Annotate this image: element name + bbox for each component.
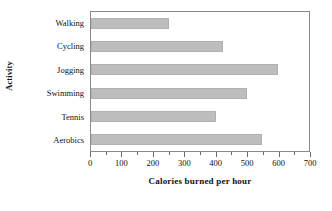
category-label-tennis: Tennis [18, 105, 88, 129]
x-tick-minor [169, 152, 170, 155]
bar-row [91, 105, 309, 128]
x-tick-minor [263, 152, 264, 155]
x-tick-major [153, 152, 154, 157]
bar-aerobics [91, 134, 262, 145]
x-axis-title: Calories burned per hour [90, 176, 310, 186]
bar-tennis [91, 111, 216, 122]
x-tick-minor [294, 152, 295, 155]
bar-jogging [91, 64, 278, 75]
category-label-cycling: Cycling [18, 35, 88, 59]
category-axis-labels: Walking Cycling Jogging Swimming Tennis … [18, 11, 88, 152]
bar-row [91, 12, 309, 35]
bar-row [91, 82, 309, 105]
category-label-walking: Walking [18, 11, 88, 35]
x-tick-minor [231, 152, 232, 155]
x-tick-label: 300 [178, 158, 191, 168]
x-tick-minor [106, 152, 107, 155]
x-tick-label: 200 [146, 158, 159, 168]
bar-walking [91, 18, 169, 29]
x-tick-minor [200, 152, 201, 155]
x-tick-major [90, 152, 91, 157]
category-label-aerobics: Aerobics [18, 129, 88, 153]
category-label-jogging: Jogging [18, 58, 88, 82]
bar-row [91, 58, 309, 81]
bar-cycling [91, 41, 223, 52]
category-label-swimming: Swimming [18, 82, 88, 106]
x-tick-major [216, 152, 217, 157]
x-tick-label: 700 [304, 158, 317, 168]
x-tick-label: 400 [209, 158, 222, 168]
x-tick-label: 0 [88, 158, 92, 168]
bar-chart: Activity Walking Cycling Jogging Swimmin… [0, 0, 332, 211]
bar-row [91, 128, 309, 151]
x-tick-label: 600 [272, 158, 285, 168]
y-axis-title: Activity [0, 0, 18, 152]
x-tick-label: 100 [115, 158, 128, 168]
y-axis-title-text: Activity [4, 61, 14, 91]
bar-swimming [91, 88, 247, 99]
x-tick-major [247, 152, 248, 157]
bars-layer [91, 12, 309, 151]
x-axis-tick-labels: 0100200300400500600700 [90, 158, 310, 172]
x-tick-major [279, 152, 280, 157]
plot-area [90, 11, 310, 152]
x-tick-major [310, 152, 311, 157]
x-tick-major [121, 152, 122, 157]
bar-row [91, 35, 309, 58]
x-tick-label: 500 [241, 158, 254, 168]
x-tick-major [184, 152, 185, 157]
x-tick-minor [137, 152, 138, 155]
